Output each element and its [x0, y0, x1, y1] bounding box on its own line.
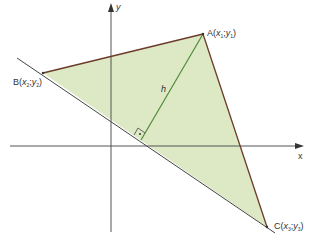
y-axis-label: y — [116, 3, 121, 12]
vertex-c-name: C — [274, 221, 281, 231]
triangle-diagram — [0, 0, 311, 241]
x-axis-label: x — [298, 152, 303, 161]
right-angle-dot — [139, 133, 141, 135]
altitude-label: h — [161, 85, 166, 94]
vertex-a-point — [202, 33, 204, 35]
vertex-c-y-sub: 3 — [298, 226, 301, 232]
vertex-c-x-sub: 3 — [288, 226, 291, 232]
vertex-a-y-sub: 1 — [230, 33, 233, 39]
vertex-b-point — [42, 72, 44, 74]
y-axis-arrow-icon — [108, 3, 114, 12]
vertex-a-x-sub: 1 — [221, 33, 224, 39]
vertex-a-name: A — [207, 28, 213, 38]
vertex-a-label: A(x1;y1) — [207, 29, 236, 39]
vertex-b-y-sub: 2 — [36, 82, 39, 88]
x-axis-arrow-icon — [295, 143, 304, 149]
vertex-b-name: B — [13, 77, 19, 87]
vertex-c-label: C(x3;y3) — [274, 222, 304, 232]
vertex-b-label: B(x2;y2) — [13, 78, 42, 88]
triangle-fill — [43, 34, 267, 227]
vertex-b-x-sub: 2 — [27, 82, 30, 88]
vertex-c-point — [266, 226, 268, 228]
